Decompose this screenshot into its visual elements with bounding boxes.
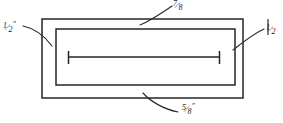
fraction-right-denominator: 2: [272, 27, 276, 36]
fraction-right: 1/2: [266, 24, 276, 35]
drawing-canvas: [0, 0, 283, 123]
leader-line-left: [23, 26, 52, 46]
fraction-top: 7/8: [173, 0, 183, 11]
fraction-left-unit: ″: [13, 20, 16, 29]
fraction-left: 1/2″: [3, 22, 16, 33]
fraction-bottom: 5/8″: [182, 104, 195, 115]
fraction-bottom-unit: ″: [192, 102, 195, 111]
dimension-label-top: 7/8: [173, 0, 183, 11]
leader-line-bottom: [143, 93, 178, 112]
dimension-label-right: 1/2: [266, 24, 276, 35]
dimension-label-left: 1/2″: [3, 22, 16, 33]
leader-line-right: [233, 29, 264, 50]
fraction-top-denominator: 8: [179, 3, 183, 12]
leader-line-top: [140, 6, 172, 25]
fraction-left-denominator: 2: [9, 25, 13, 34]
technical-drawing: 7/8 5/8″ 1/2″ 1/2: [0, 0, 283, 123]
dimension-label-bottom: 5/8″: [182, 104, 195, 115]
outer-rectangle: [42, 19, 243, 98]
fraction-bottom-denominator: 8: [188, 107, 192, 116]
